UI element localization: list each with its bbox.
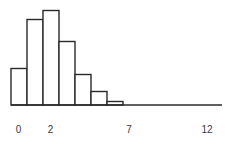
bar-0-1 [11, 69, 27, 106]
x-axis-tick-labels: 0 2 7 12 [16, 124, 213, 135]
bar-3-4 [59, 42, 75, 106]
x-tick-label-7: 7 [126, 124, 132, 135]
bar-1-2 [27, 20, 43, 106]
histogram-bars [11, 11, 123, 106]
x-tick-label-0: 0 [16, 124, 22, 135]
bar-2-3 [43, 11, 59, 106]
bar-4-5 [75, 75, 91, 106]
histogram-screenshot: 0 2 7 12 [0, 0, 227, 148]
x-tick-label-12: 12 [201, 124, 213, 135]
histogram-chart: 0 2 7 12 [0, 0, 227, 148]
bar-5-6 [91, 92, 107, 106]
x-tick-label-2: 2 [48, 124, 54, 135]
